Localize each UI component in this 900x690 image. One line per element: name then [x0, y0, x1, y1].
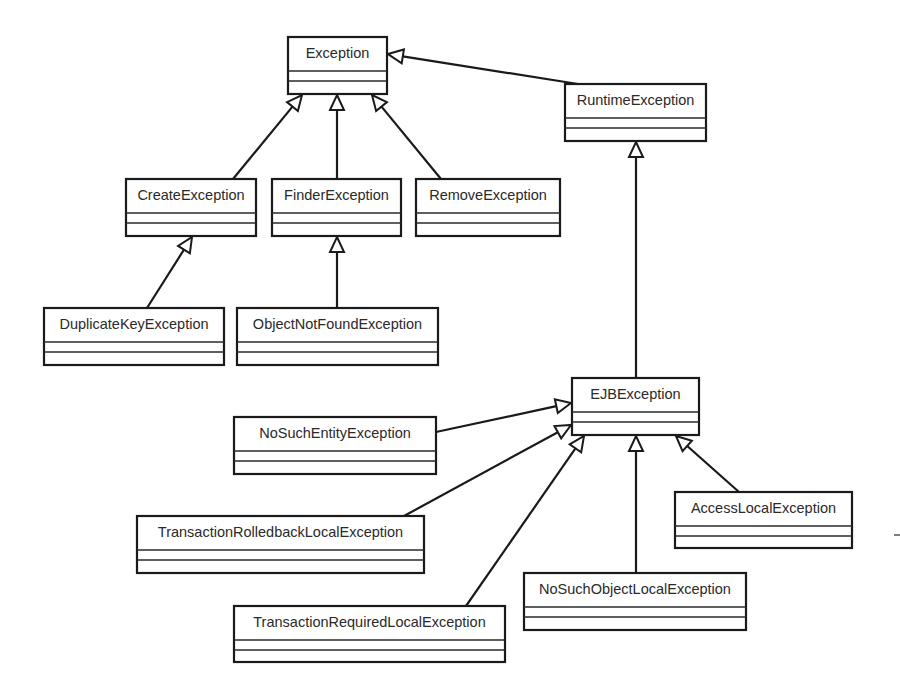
- class-name: FinderException: [284, 187, 389, 203]
- generalization-duplicate-key-exception-to-create-exception: [147, 237, 192, 308]
- generalization-ejbexception-to-runtime-exception: [629, 142, 643, 378]
- class-create-exception: CreateException: [126, 179, 256, 236]
- edge-line: [436, 406, 556, 432]
- class-name: AccessLocalException: [691, 500, 836, 516]
- hollow-triangle-arrowhead-icon: [555, 399, 571, 413]
- uml-diagram: ExceptionRuntimeExceptionCreateException…: [0, 0, 900, 690]
- generalization-finder-exception-to-exception: [330, 95, 344, 179]
- class-name: EJBException: [590, 386, 680, 402]
- edge-line: [382, 107, 441, 179]
- class-name: TransactionRolledbackLocalException: [158, 524, 403, 540]
- class-no-such-object-local-exception: NoSuchObjectLocalException: [524, 573, 746, 630]
- edge-line: [403, 56, 578, 84]
- class-name: NoSuchEntityException: [259, 425, 411, 441]
- hollow-triangle-arrowhead-icon: [629, 142, 643, 157]
- generalization-remove-exception-to-exception: [372, 95, 441, 179]
- hollow-triangle-arrowhead-icon: [287, 95, 302, 111]
- class-name: NoSuchObjectLocalException: [539, 581, 731, 597]
- class-access-local-exception: AccessLocalException: [675, 492, 852, 548]
- class-name: ObjectNotFoundException: [253, 316, 422, 332]
- edge-line: [233, 107, 292, 179]
- class-name: DuplicateKeyException: [59, 316, 208, 332]
- generalization-access-local-exception-to-ejbexception: [676, 436, 739, 492]
- class-transaction-required-local-exception: TransactionRequiredLocalException: [234, 606, 505, 662]
- class-finder-exception: FinderException: [272, 179, 401, 236]
- hollow-triangle-arrowhead-icon: [178, 237, 192, 253]
- generalization-object-not-found-exception-to-finder-exception: [330, 237, 344, 308]
- hollow-triangle-arrowhead-icon: [330, 237, 344, 252]
- hollow-triangle-arrowhead-icon: [330, 95, 344, 110]
- class-name: RemoveException: [429, 187, 547, 203]
- class-name: CreateException: [137, 187, 244, 203]
- class-runtime-exception: RuntimeException: [565, 84, 706, 141]
- hollow-triangle-arrowhead-icon: [570, 436, 584, 452]
- class-name: Exception: [306, 45, 370, 61]
- class-ejbexception: EJBException: [572, 378, 699, 435]
- class-exception: Exception: [288, 37, 387, 94]
- generalization-no-such-object-local-exception-to-ejbexception: [629, 436, 643, 573]
- class-object-not-found-exception: ObjectNotFoundException: [237, 308, 438, 365]
- classes-layer: ExceptionRuntimeExceptionCreateException…: [44, 37, 852, 662]
- hollow-triangle-arrowhead-icon: [554, 425, 571, 438]
- generalization-create-exception-to-exception: [233, 95, 302, 179]
- class-name: TransactionRequiredLocalException: [253, 614, 485, 630]
- class-transaction-rolledback-local-exception: TransactionRolledbackLocalException: [137, 516, 424, 573]
- edge-line: [687, 446, 739, 492]
- hollow-triangle-arrowhead-icon: [372, 95, 387, 111]
- hollow-triangle-arrowhead-icon: [629, 436, 643, 451]
- class-duplicate-key-exception: DuplicateKeyException: [44, 308, 224, 365]
- class-no-such-entity-exception: NoSuchEntityException: [234, 417, 436, 474]
- class-remove-exception: RemoveException: [416, 179, 560, 236]
- edge-line: [147, 250, 184, 308]
- generalization-runtime-exception-to-exception: [388, 49, 578, 84]
- hollow-triangle-arrowhead-icon: [388, 49, 404, 63]
- class-name: RuntimeException: [577, 92, 695, 108]
- generalization-no-such-entity-exception-to-ejbexception: [436, 399, 571, 432]
